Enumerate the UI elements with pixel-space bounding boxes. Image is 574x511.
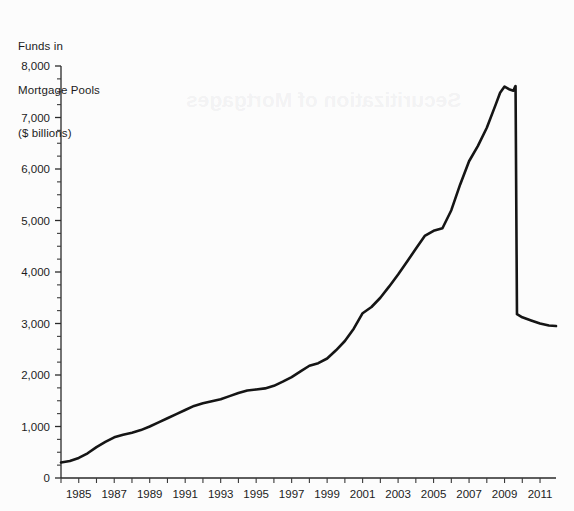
chart-title-line-2: Mortgage Pools [18, 83, 100, 98]
x-tick-label: 1999 [314, 488, 340, 500]
y-tick-label: 2,000 [21, 369, 50, 381]
chart-title-line-1: Funds in [18, 39, 100, 54]
x-tick-label: 2001 [350, 488, 376, 500]
y-tick-label: 5,000 [21, 215, 50, 227]
x-tick-label: 1989 [137, 488, 163, 500]
x-tick-label: 2011 [528, 488, 553, 500]
y-tick-label: 3,000 [21, 318, 50, 330]
mortgage-pools-chart: Securitization of Mortgages Funds in Mor… [0, 0, 574, 511]
x-tick-label: 1987 [101, 488, 127, 500]
x-tick-label: 1997 [279, 488, 305, 500]
x-axis-tick-labels: 1985198719891991199319951997199920012003… [66, 488, 552, 500]
y-tick-label: 0 [44, 472, 50, 484]
chart-title-line-3: ($ billions) [18, 126, 100, 141]
x-tick-label: 1995 [243, 488, 269, 500]
chart-title: Funds in Mortgage Pools ($ billions) [18, 10, 100, 170]
x-tick-label: 2009 [492, 488, 518, 500]
series-line-funds-in-mortgage-pools [61, 86, 556, 462]
x-tick-label: 1991 [172, 488, 198, 500]
x-axis-ticks [61, 478, 540, 483]
x-tick-label: 2007 [456, 488, 482, 500]
x-axis: 1985198719891991199319951997199920012003… [61, 478, 556, 500]
x-tick-label: 2005 [421, 488, 447, 500]
y-tick-label: 1,000 [21, 421, 50, 433]
x-tick-label: 1985 [66, 488, 92, 500]
x-tick-label: 2003 [385, 488, 411, 500]
x-tick-label: 1993 [208, 488, 234, 500]
plot-area [61, 86, 556, 462]
y-tick-label: 4,000 [21, 266, 50, 278]
